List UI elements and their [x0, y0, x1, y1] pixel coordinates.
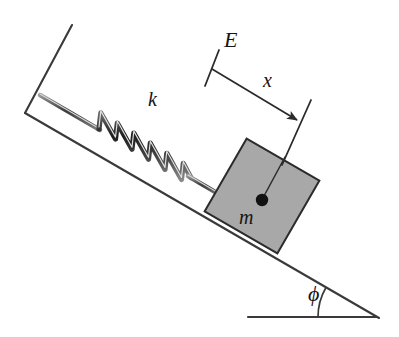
- diagram-canvas: [0, 0, 399, 337]
- physics-diagram: k E x m ϕ: [0, 0, 399, 337]
- equilibrium-tick-line: [205, 50, 219, 86]
- equilibrium-point-label: E: [224, 29, 237, 51]
- spring-left-rod: [40, 95, 100, 130]
- spring-constant-label: k: [148, 89, 157, 109]
- spring-left-rod-highlight: [40, 94, 100, 129]
- center-of-mass-dot: [256, 194, 268, 206]
- displacement-arrow: [212, 69, 297, 120]
- incline-angle-label: ϕ: [308, 283, 319, 305]
- block-position-edge-line: [282, 100, 311, 165]
- mass-label: m: [239, 207, 253, 227]
- displacement-label: x: [263, 70, 272, 90]
- incline-surface-line: [25, 113, 379, 318]
